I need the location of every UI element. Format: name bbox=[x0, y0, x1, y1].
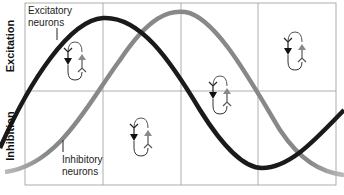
oscillation-diagram: Excitatory neurons Inhibitory neurons Ex… bbox=[0, 0, 344, 195]
excitation-axis-label: Excitation bbox=[4, 14, 16, 78]
excitatory-label: Excitatory neurons bbox=[28, 5, 72, 29]
circuit-icon-1 bbox=[64, 42, 86, 80]
inhibition-axis-label: Inhibition bbox=[4, 104, 16, 168]
inhibitory-label: Inhibitory neurons bbox=[62, 154, 103, 178]
circuit-icon-2 bbox=[130, 118, 152, 156]
circuit-icon-3 bbox=[209, 76, 231, 114]
circuit-icon-4 bbox=[284, 32, 306, 70]
diagram-canvas bbox=[0, 0, 344, 195]
inhibitory-curve bbox=[5, 12, 344, 175]
